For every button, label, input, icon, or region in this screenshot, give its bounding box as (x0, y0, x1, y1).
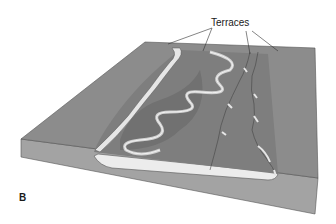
block-diagram-river-terraces (0, 0, 336, 224)
panel-label: B (19, 192, 26, 203)
terraces-label: Terraces (211, 17, 249, 28)
